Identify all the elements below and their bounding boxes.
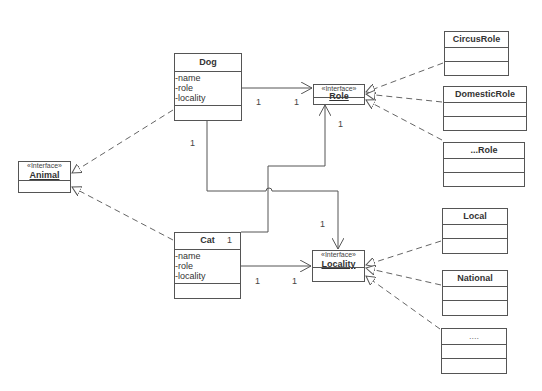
realization-cat-animal bbox=[72, 187, 173, 240]
animal-header: «Interface» Animal bbox=[19, 162, 70, 181]
circusrole-name: CircusRole bbox=[453, 34, 501, 44]
realization-otherrole-role bbox=[366, 100, 442, 140]
cat-attr-locality: -locality bbox=[175, 271, 240, 281]
otherrole-header: ...Role bbox=[444, 143, 524, 159]
locality-name: Locality bbox=[313, 259, 364, 269]
dog-attr-role: -role bbox=[175, 83, 241, 93]
mult-dog-role-target: 1 bbox=[294, 97, 299, 107]
realization-local-locality bbox=[366, 241, 441, 265]
dog-attr-name: -name bbox=[175, 73, 241, 83]
dog-operations bbox=[175, 106, 241, 120]
otherlocality-header: .... bbox=[442, 329, 506, 345]
otherlocality-name: .... bbox=[469, 331, 479, 341]
animal-stereotype: «Interface» bbox=[19, 162, 70, 170]
animal-name: Animal bbox=[19, 170, 70, 180]
realization-circusrole-role bbox=[366, 63, 443, 92]
realization-domesticrole-role bbox=[366, 94, 442, 102]
otherrole-attributes bbox=[444, 159, 524, 173]
realization-other-locality bbox=[366, 276, 440, 329]
local-operations bbox=[443, 239, 507, 253]
otherlocality-attributes bbox=[442, 345, 506, 359]
domesticrole-name: DomesticRole bbox=[455, 89, 515, 99]
otherlocality-operations bbox=[442, 359, 506, 373]
mult-cat-role-source: 1 bbox=[227, 235, 232, 245]
mult-dog-locality-target: 1 bbox=[320, 219, 325, 229]
cat-attr-role: -role bbox=[175, 261, 240, 271]
locality-stereotype: «Interface» bbox=[313, 251, 364, 259]
domesticrole-operations bbox=[444, 117, 526, 130]
mult-cat-locality-target: 1 bbox=[292, 276, 297, 286]
dog-attributes: -name -role -locality bbox=[175, 72, 241, 106]
mult-dog-role-source: 1 bbox=[256, 97, 261, 107]
circusrole-attributes bbox=[445, 48, 508, 62]
role-interface[interactable]: «Interface» Role bbox=[313, 84, 365, 105]
cat-operations bbox=[175, 284, 240, 298]
mult-cat-locality-source: 1 bbox=[255, 276, 260, 286]
dog-name: Dog bbox=[199, 57, 217, 67]
association-cat-role bbox=[241, 105, 325, 232]
locality-interface[interactable]: «Interface» Locality bbox=[312, 250, 365, 282]
local-class[interactable]: Local bbox=[442, 208, 508, 254]
circusrole-operations bbox=[445, 62, 508, 75]
mult-cat-role-target: 1 bbox=[338, 119, 343, 129]
otherrole-operations bbox=[444, 173, 524, 186]
circusrole-class[interactable]: CircusRole bbox=[444, 31, 509, 76]
dog-class[interactable]: Dog -name -role -locality bbox=[174, 53, 242, 121]
locality-header: «Interface» Locality bbox=[313, 251, 364, 268]
role-header: «Interface» Role bbox=[314, 85, 364, 98]
mult-dog-locality-source: 1 bbox=[190, 138, 195, 148]
otherrole-name: ...Role bbox=[470, 145, 497, 155]
otherrole-class[interactable]: ...Role bbox=[443, 142, 525, 187]
dog-attr-locality: -locality bbox=[175, 93, 241, 103]
association-dog-locality bbox=[207, 121, 338, 249]
local-header: Local bbox=[443, 209, 507, 225]
local-attributes bbox=[443, 225, 507, 239]
domesticrole-header: DomesticRole bbox=[444, 87, 526, 103]
animal-compartment bbox=[19, 181, 70, 192]
local-name: Local bbox=[463, 211, 487, 221]
cat-attr-name: -name bbox=[175, 251, 240, 261]
national-class[interactable]: National bbox=[442, 270, 508, 316]
national-operations bbox=[443, 301, 507, 315]
animal-interface[interactable]: «Interface» Animal bbox=[18, 161, 71, 193]
cat-name: Cat bbox=[200, 235, 215, 245]
domesticrole-class[interactable]: DomesticRole bbox=[443, 86, 527, 131]
national-header: National bbox=[443, 271, 507, 287]
domesticrole-attributes bbox=[444, 103, 526, 117]
circusrole-header: CircusRole bbox=[445, 32, 508, 48]
national-name: National bbox=[457, 273, 493, 283]
cat-attributes: -name -role -locality bbox=[175, 250, 240, 284]
national-attributes bbox=[443, 287, 507, 301]
dog-header: Dog bbox=[175, 54, 241, 72]
otherlocality-class[interactable]: .... bbox=[441, 328, 507, 374]
realization-dog-animal bbox=[72, 110, 173, 173]
realization-national-locality bbox=[366, 268, 441, 285]
